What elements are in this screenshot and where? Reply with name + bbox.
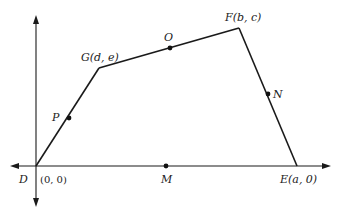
label-D: D [18,173,28,186]
x-axis-arrow-right [322,163,331,169]
label-F: F(b, c) [224,11,261,24]
label-G: G(d, e) [81,51,119,64]
label-O: O [164,31,173,44]
label-D-coords: (0, 0) [40,174,67,185]
label-M: M [160,173,173,186]
y-axis-arrow-up [33,15,39,24]
point-M [164,164,169,169]
point-P [67,116,72,121]
label-N: N [272,88,283,101]
label-P: P [51,111,60,124]
x-axis-arrow-left [10,163,19,169]
label-E: E(a, 0) [279,173,317,186]
point-N [266,92,271,97]
side-FE [239,28,297,166]
y-axis-arrow-down [33,198,39,207]
point-O [168,46,173,51]
quadrilateral-diagram: D (0, 0) E(a, 0) F(b, c) G(d, e) M N O P [0,0,340,216]
